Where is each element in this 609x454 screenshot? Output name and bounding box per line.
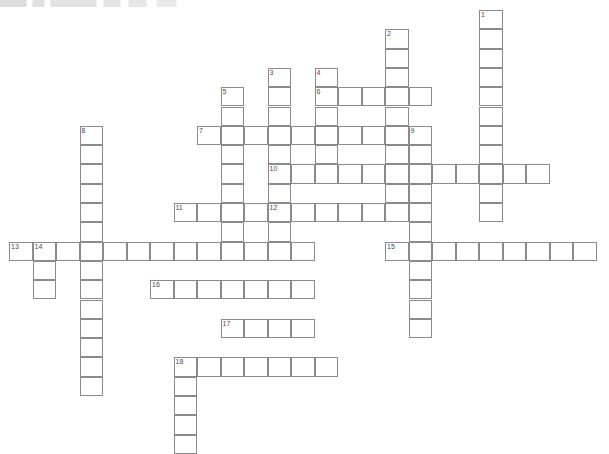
crossword-cell[interactable] bbox=[479, 29, 503, 48]
crossword-cell[interactable] bbox=[315, 126, 339, 145]
crossword-cell[interactable] bbox=[409, 300, 433, 319]
crossword-cell[interactable] bbox=[315, 145, 339, 164]
crossword-cell-numbered[interactable]: 5 bbox=[221, 87, 245, 106]
crossword-cell[interactable] bbox=[244, 242, 268, 261]
crossword-cell-numbered[interactable]: 7 bbox=[197, 126, 221, 145]
crossword-cell[interactable] bbox=[221, 203, 245, 222]
crossword-cell[interactable] bbox=[268, 222, 292, 241]
crossword-cell[interactable] bbox=[268, 280, 292, 299]
crossword-cell-numbered[interactable]: 10 bbox=[268, 164, 292, 183]
crossword-cell[interactable] bbox=[503, 164, 527, 183]
crossword-cell[interactable] bbox=[362, 203, 386, 222]
crossword-cell[interactable] bbox=[456, 242, 480, 261]
crossword-cell-numbered[interactable]: 14 bbox=[33, 242, 57, 261]
crossword-cell[interactable] bbox=[268, 242, 292, 261]
crossword-cell[interactable] bbox=[573, 242, 597, 261]
crossword-cell[interactable] bbox=[150, 242, 174, 261]
crossword-cell[interactable] bbox=[80, 222, 104, 241]
crossword-cell-numbered[interactable]: 17 bbox=[221, 319, 245, 338]
crossword-cell[interactable] bbox=[432, 164, 456, 183]
crossword-cell[interactable] bbox=[268, 357, 292, 376]
crossword-cell[interactable] bbox=[479, 203, 503, 222]
crossword-cell-numbered[interactable]: 12 bbox=[268, 203, 292, 222]
crossword-cell[interactable] bbox=[174, 435, 198, 454]
crossword-cell[interactable] bbox=[315, 107, 339, 126]
crossword-cell[interactable] bbox=[174, 415, 198, 434]
crossword-cell[interactable] bbox=[385, 164, 409, 183]
crossword-cell[interactable] bbox=[268, 145, 292, 164]
crossword-cell[interactable] bbox=[315, 357, 339, 376]
crossword-cell[interactable] bbox=[362, 164, 386, 183]
crossword-cell[interactable] bbox=[80, 164, 104, 183]
crossword-cell[interactable] bbox=[103, 242, 127, 261]
crossword-cell[interactable] bbox=[385, 184, 409, 203]
crossword-cell-numbered[interactable]: 18 bbox=[174, 357, 198, 376]
crossword-cell[interactable] bbox=[291, 164, 315, 183]
crossword-cell[interactable] bbox=[291, 203, 315, 222]
crossword-cell[interactable] bbox=[479, 49, 503, 68]
crossword-cell[interactable] bbox=[221, 222, 245, 241]
crossword-cell[interactable] bbox=[291, 319, 315, 338]
crossword-cell[interactable] bbox=[385, 126, 409, 145]
crossword-cell[interactable] bbox=[409, 203, 433, 222]
crossword-cell-numbered[interactable]: 8 bbox=[80, 126, 104, 145]
crossword-cell[interactable] bbox=[432, 242, 456, 261]
crossword-cell[interactable] bbox=[244, 280, 268, 299]
crossword-cell[interactable] bbox=[221, 164, 245, 183]
crossword-cell[interactable] bbox=[197, 280, 221, 299]
crossword-cell[interactable] bbox=[80, 377, 104, 396]
crossword-cell[interactable] bbox=[338, 164, 362, 183]
crossword-cell[interactable] bbox=[409, 242, 433, 261]
crossword-cell[interactable] bbox=[479, 68, 503, 87]
crossword-cell[interactable] bbox=[80, 300, 104, 319]
crossword-cell[interactable] bbox=[291, 242, 315, 261]
crossword-cell[interactable] bbox=[56, 242, 80, 261]
crossword-cell[interactable] bbox=[409, 280, 433, 299]
crossword-cell[interactable] bbox=[221, 280, 245, 299]
crossword-cell-numbered[interactable]: 1 bbox=[479, 10, 503, 29]
crossword-cell-numbered[interactable]: 15 bbox=[385, 242, 409, 261]
crossword-cell[interactable] bbox=[80, 338, 104, 357]
crossword-cell[interactable] bbox=[479, 145, 503, 164]
crossword-cell[interactable] bbox=[526, 242, 550, 261]
crossword-cell[interactable] bbox=[80, 280, 104, 299]
crossword-cell[interactable] bbox=[80, 184, 104, 203]
crossword-cell[interactable] bbox=[385, 87, 409, 106]
crossword-cell[interactable] bbox=[385, 145, 409, 164]
crossword-cell-numbered[interactable]: 2 bbox=[385, 29, 409, 48]
crossword-cell[interactable] bbox=[221, 357, 245, 376]
crossword-cell[interactable] bbox=[409, 145, 433, 164]
crossword-cell[interactable] bbox=[197, 203, 221, 222]
crossword-cell[interactable] bbox=[409, 164, 433, 183]
crossword-cell[interactable] bbox=[33, 261, 57, 280]
crossword-cell[interactable] bbox=[268, 126, 292, 145]
crossword-cell[interactable] bbox=[221, 145, 245, 164]
crossword-cell-numbered[interactable]: 4 bbox=[315, 68, 339, 87]
crossword-cell[interactable] bbox=[338, 203, 362, 222]
crossword-cell[interactable] bbox=[315, 164, 339, 183]
crossword-cell[interactable] bbox=[197, 242, 221, 261]
crossword-cell[interactable] bbox=[291, 126, 315, 145]
crossword-cell[interactable] bbox=[385, 203, 409, 222]
crossword-cell[interactable] bbox=[456, 164, 480, 183]
crossword-cell[interactable] bbox=[409, 222, 433, 241]
crossword-cell[interactable] bbox=[291, 280, 315, 299]
crossword-cell[interactable] bbox=[385, 68, 409, 87]
crossword-cell[interactable] bbox=[526, 164, 550, 183]
crossword-cell[interactable] bbox=[268, 319, 292, 338]
crossword-cell[interactable] bbox=[221, 242, 245, 261]
crossword-cell[interactable] bbox=[409, 87, 433, 106]
crossword-cell[interactable] bbox=[550, 242, 574, 261]
crossword-cell[interactable] bbox=[174, 396, 198, 415]
crossword-cell[interactable] bbox=[268, 184, 292, 203]
crossword-cell[interactable] bbox=[268, 87, 292, 106]
crossword-cell-numbered[interactable]: 3 bbox=[268, 68, 292, 87]
crossword-cell[interactable] bbox=[174, 377, 198, 396]
crossword-cell[interactable] bbox=[197, 357, 221, 376]
crossword-cell[interactable] bbox=[221, 126, 245, 145]
crossword-cell[interactable] bbox=[479, 242, 503, 261]
crossword-cell[interactable] bbox=[244, 357, 268, 376]
crossword-cell[interactable] bbox=[174, 242, 198, 261]
crossword-cell[interactable] bbox=[479, 107, 503, 126]
crossword-cell[interactable] bbox=[385, 49, 409, 68]
